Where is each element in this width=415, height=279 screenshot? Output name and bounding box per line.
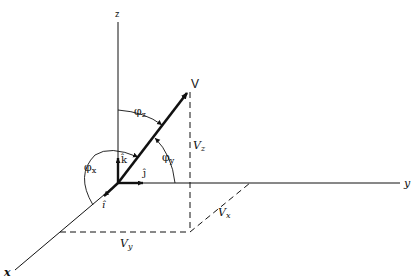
- phi-z-label: φz: [134, 106, 146, 119]
- vz-label: Vz: [193, 140, 205, 153]
- x-axis-label: x: [4, 267, 11, 278]
- unit-k-label: k̂: [121, 155, 127, 165]
- vy-label: Vy: [120, 238, 132, 251]
- z-axis-label: z: [115, 10, 120, 19]
- phi-y-label: φy: [162, 152, 174, 165]
- vx-label: Vx: [218, 207, 230, 220]
- diagram-canvas: [0, 0, 415, 279]
- unit-j-label: ĵ: [143, 168, 146, 178]
- phi-x-arc: [84, 150, 138, 205]
- unit-vector-i: [104, 183, 118, 196]
- y-axis-label: y: [404, 178, 410, 189]
- unit-i-label: î: [102, 200, 105, 210]
- vector-v: [118, 93, 187, 183]
- vector-diagram: z y x V k̂ ĵ î φz φy φx Vz Vx Vy: [0, 0, 415, 279]
- vector-v-label: V: [191, 78, 199, 90]
- phi-x-label: φx: [84, 162, 96, 175]
- x-axis: [15, 183, 118, 270]
